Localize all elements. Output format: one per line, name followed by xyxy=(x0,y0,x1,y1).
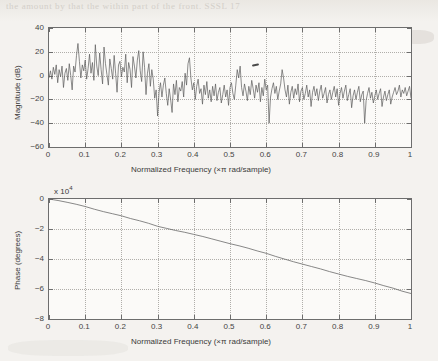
x-tick-label: 1 xyxy=(408,150,412,159)
x-tick-label: 0.6 xyxy=(260,322,271,331)
phase-subplot: 00.10.20.30.40.50.60.70.80.91 0−2−4−6−8 … xyxy=(0,180,438,361)
axis-tick-y xyxy=(49,319,53,320)
magnitude-subplot: 00.10.20.30.40.50.60.70.80.91 40200−20−4… xyxy=(0,0,438,180)
x-tick-label: 0.4 xyxy=(187,150,198,159)
y-tick-label: −4 xyxy=(35,254,44,263)
phase-x-axis-title: Normalized Frequency (×π rad/sample) xyxy=(131,337,271,346)
y-tick-label: −2 xyxy=(35,224,44,233)
phase-y-axis-title: Phase (degrees) xyxy=(13,231,22,290)
y-tick-label: 0 xyxy=(40,70,44,79)
x-tick-label: 0.6 xyxy=(260,150,271,159)
magnitude-x-axis-title: Normalized Frequency (×π rad/sample) xyxy=(131,165,271,174)
x-tick-label: 0.7 xyxy=(296,150,307,159)
phase-y-exponent-power: 4 xyxy=(69,185,72,191)
magnitude-plot-area xyxy=(48,27,412,148)
phase-plot-area xyxy=(48,198,412,320)
x-tick-label: 0.3 xyxy=(151,322,162,331)
x-tick-label: 0.8 xyxy=(332,150,343,159)
axis-tick-x xyxy=(411,143,412,147)
x-tick-label: 0.8 xyxy=(332,322,343,331)
x-tick-label: 0.4 xyxy=(187,322,198,331)
axis-tick-y xyxy=(407,319,411,320)
x-tick-label: 0.1 xyxy=(79,322,90,331)
x-tick-label: 0.5 xyxy=(223,322,234,331)
phase-y-exponent-label: x 104 xyxy=(54,185,72,196)
x-tick-label: 0.1 xyxy=(79,150,90,159)
axis-tick-x xyxy=(411,315,412,319)
y-tick-label: 0 xyxy=(40,194,44,203)
y-tick-label: −60 xyxy=(30,142,44,151)
axis-tick-y xyxy=(49,147,53,148)
phase-y-exponent-mantissa: x 10 xyxy=(54,187,69,196)
figure-page: the amount by that the within part of th… xyxy=(0,0,438,361)
axis-tick-x xyxy=(411,28,412,32)
y-tick-label: −40 xyxy=(30,118,44,127)
x-tick-label: 0.9 xyxy=(368,322,379,331)
axis-tick-y xyxy=(407,147,411,148)
x-tick-label: 0 xyxy=(46,150,50,159)
data-series-line xyxy=(49,43,411,123)
axis-tick-x xyxy=(411,199,412,203)
y-tick-label: −6 xyxy=(35,284,44,293)
x-tick-label: 0.2 xyxy=(115,150,126,159)
y-tick-label: −8 xyxy=(35,314,44,323)
x-tick-label: 0.7 xyxy=(296,322,307,331)
x-tick-label: 0 xyxy=(46,322,50,331)
data-series-line xyxy=(49,199,411,294)
phase-trace-svg xyxy=(49,199,411,319)
y-tick-label: 20 xyxy=(35,46,44,55)
y-tick-label: 40 xyxy=(35,23,44,32)
x-tick-label: 1 xyxy=(408,322,412,331)
x-tick-label: 0.5 xyxy=(223,150,234,159)
x-tick-label: 0.9 xyxy=(368,150,379,159)
magnitude-trace-svg xyxy=(49,28,411,147)
magnitude-y-axis-title: Magnitude (dB) xyxy=(13,65,22,120)
x-tick-label: 0.2 xyxy=(115,322,126,331)
y-tick-label: −20 xyxy=(30,94,44,103)
x-tick-label: 0.3 xyxy=(151,150,162,159)
